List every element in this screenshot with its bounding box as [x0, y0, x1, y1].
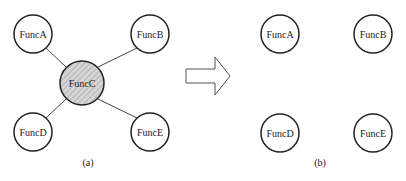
node-label: FuncB	[360, 29, 387, 40]
right-arrow-icon	[186, 57, 230, 95]
node-label: FuncB	[137, 29, 164, 40]
node-label: FuncD	[266, 128, 293, 139]
panel-b: FuncA FuncB FuncD FuncE (b)	[261, 15, 392, 169]
node-label: FuncE	[360, 128, 386, 139]
node-label: FuncA	[19, 29, 47, 40]
node-label: FuncD	[19, 127, 46, 138]
node-funce-b: FuncE	[354, 114, 392, 152]
node-label: FuncA	[266, 29, 294, 40]
edge-c-e	[98, 99, 137, 118]
node-funca-a: FuncA	[14, 15, 52, 53]
node-funcd-b: FuncD	[261, 114, 299, 152]
node-label: FuncC	[69, 78, 96, 89]
panel-a: FuncA FuncB FuncC FuncD FuncE (a)	[14, 15, 169, 169]
edge-c-b	[98, 48, 137, 67]
node-funcb-b: FuncB	[354, 15, 392, 53]
edge-c-d	[46, 99, 66, 118]
diagram-canvas: FuncA FuncB FuncC FuncD FuncE (a) FuncA	[0, 0, 406, 181]
node-funce-a: FuncE	[131, 113, 169, 151]
node-funcc-center: FuncC	[60, 61, 104, 105]
caption-b: (b)	[314, 157, 326, 169]
caption-a: (a)	[82, 157, 93, 169]
node-funcb-a: FuncB	[131, 15, 169, 53]
node-funcd-a: FuncD	[14, 113, 52, 151]
edge-c-a	[46, 48, 66, 67]
node-funca-b: FuncA	[261, 15, 299, 53]
node-label: FuncE	[137, 127, 163, 138]
